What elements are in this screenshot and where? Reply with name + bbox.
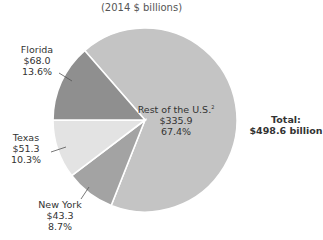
new-york-label: New York $43.3 8.7% xyxy=(30,199,90,232)
texas-name: Texas xyxy=(4,132,48,143)
rest-of-us-percent: 67.4% xyxy=(136,126,216,137)
texas-percent: 10.3% xyxy=(4,154,48,165)
total-label: Total: $498.6 billion xyxy=(246,114,323,136)
florida-name: Florida xyxy=(12,44,62,55)
florida-percent: 13.6% xyxy=(12,66,62,77)
footnote-marker: 2 xyxy=(211,104,214,110)
rest-of-us-value: $335.9 xyxy=(136,115,216,126)
florida-label: Florida $68.0 13.6% xyxy=(12,44,62,77)
total-value: $498.6 billion xyxy=(246,125,323,136)
new-york-value: $43.3 xyxy=(30,210,90,221)
rest-of-us-name: Rest of the U.S.2 xyxy=(136,102,216,115)
total-title: Total: xyxy=(246,114,323,125)
rest-of-us-label: Rest of the U.S.2 $335.9 67.4% xyxy=(136,102,216,137)
new-york-name: New York xyxy=(30,199,90,210)
texas-label: Texas $51.3 10.3% xyxy=(4,132,48,165)
new-york-percent: 8.7% xyxy=(30,221,90,232)
texas-value: $51.3 xyxy=(4,143,48,154)
florida-value: $68.0 xyxy=(12,55,62,66)
